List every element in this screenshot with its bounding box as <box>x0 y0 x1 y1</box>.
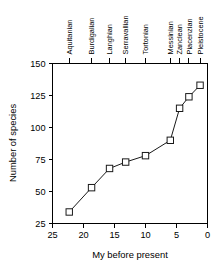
stage-label: Aquitanian <box>65 20 74 55</box>
x-tick-label: 10 <box>140 230 150 240</box>
data-point-marker <box>197 82 203 88</box>
y-tick-label: 125 <box>30 91 45 101</box>
stage-label: Burdigalian <box>87 18 96 55</box>
x-axis-tick-labels: 2520151050 <box>47 230 210 240</box>
y-tick-label: 75 <box>35 155 45 165</box>
series-markers <box>66 82 203 215</box>
data-point-marker <box>122 159 128 165</box>
x-axis-ticks <box>53 224 208 228</box>
chart-container: AquitanianBurdigalianLanghianSerravallia… <box>0 0 223 270</box>
x-tick-label: 20 <box>78 230 88 240</box>
x-tick-label: 5 <box>174 230 179 240</box>
stage-label: Langhian <box>105 24 114 54</box>
top-axis-stage-labels: AquitanianBurdigalianLanghianSerravallia… <box>65 15 205 54</box>
data-point-marker <box>106 165 112 171</box>
stage-label: Serravallian <box>121 15 130 54</box>
top-axis-ticks <box>69 58 200 64</box>
species-diversity-line-chart: AquitanianBurdigalianLanghianSerravallia… <box>0 0 223 270</box>
stage-label: Piacenzian <box>185 18 194 54</box>
stage-label: Tortonian <box>141 24 150 54</box>
data-point-marker <box>176 105 182 111</box>
y-tick-label: 50 <box>35 187 45 197</box>
data-point-marker <box>186 94 192 100</box>
y-tick-label: 25 <box>35 219 45 229</box>
y-tick-label: 100 <box>30 123 45 133</box>
x-axis-title: My before present <box>92 249 168 260</box>
data-point-marker <box>167 137 173 143</box>
data-point-marker <box>66 209 72 215</box>
data-point-marker <box>88 184 94 190</box>
stage-label: Pleistocene <box>196 16 205 54</box>
y-axis-title: Number of species <box>7 104 18 182</box>
series-line-number-of-species <box>69 85 200 212</box>
x-tick-label: 25 <box>47 230 57 240</box>
y-tick-label: 150 <box>30 59 45 69</box>
data-point-marker <box>142 152 148 158</box>
stage-label: Zanclean <box>175 24 184 54</box>
x-tick-label: 0 <box>205 230 210 240</box>
y-axis-ticks <box>49 64 53 224</box>
plot-area-frame <box>53 64 208 224</box>
x-tick-label: 15 <box>109 230 119 240</box>
stage-label: Messinian <box>166 21 175 54</box>
y-axis-tick-labels: 255075100125150 <box>30 59 45 229</box>
